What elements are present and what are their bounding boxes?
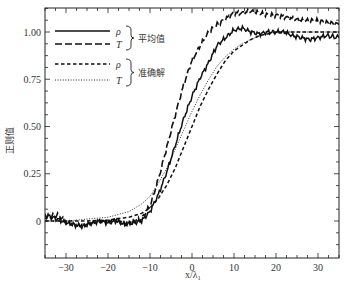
legend: ρT平均值ρT准确解 xyxy=(55,26,165,87)
legend-entry-label: ρ xyxy=(115,26,121,37)
legend-brace-icon xyxy=(126,59,134,86)
line-chart: −30−20−10010203000.250.500.751.00 ρT平均值ρ… xyxy=(0,0,345,284)
x-tick-label: 30 xyxy=(313,262,323,273)
series-lines xyxy=(45,10,339,229)
y-tick-label: 1.00 xyxy=(24,27,42,38)
legend-group-label: 平均值 xyxy=(138,33,165,44)
legend-entry-label: T xyxy=(116,75,123,86)
x-tick-label: 20 xyxy=(271,262,281,273)
x-tick-label: −30 xyxy=(58,262,74,273)
y-tick-label: 0.50 xyxy=(24,121,42,132)
y-tick-label: 0.25 xyxy=(24,168,42,179)
y-axis-label: 正则值 xyxy=(4,127,15,154)
x-tick-label: −10 xyxy=(142,262,158,273)
x-tick-label: 10 xyxy=(229,262,239,273)
legend-group-label: 准确解 xyxy=(138,67,165,78)
legend-brace-icon xyxy=(126,26,134,50)
legend-entry-label: ρ xyxy=(115,59,121,70)
x-axis-label: x/λ₁ xyxy=(185,269,201,280)
axis-ticks: −30−20−10010203000.250.500.751.00 xyxy=(24,8,340,273)
series-long-dash xyxy=(45,10,339,228)
y-tick-label: 0 xyxy=(36,216,41,227)
x-tick-label: −20 xyxy=(100,262,116,273)
y-tick-label: 0.75 xyxy=(24,74,42,85)
legend-entry-label: T xyxy=(116,39,123,50)
